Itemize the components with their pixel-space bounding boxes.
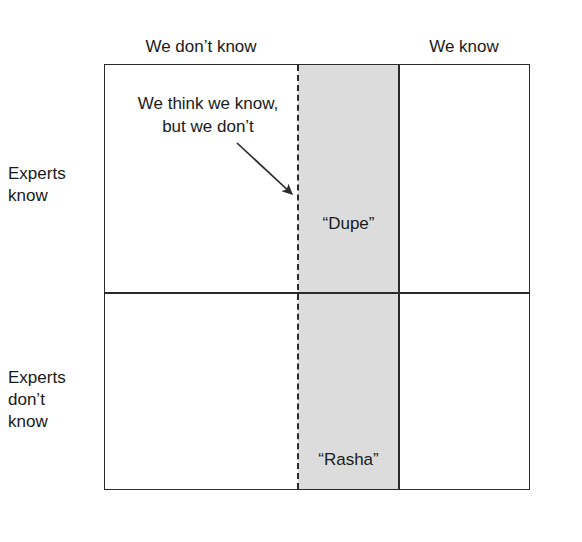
row-header-experts-know: Experts know — [8, 163, 96, 207]
annotation-label: We think we know, but we don’t — [115, 92, 301, 138]
knowledge-matrix-diagram: We don’t know We know Experts know Exper… — [0, 0, 582, 542]
row-header-experts-know-line-2: know — [8, 185, 96, 207]
vertical-divider-line — [398, 65, 400, 489]
row-header-experts-dont-know: Experts don’t know — [8, 367, 96, 433]
cell-label-dupe: “Dupe” — [298, 213, 399, 234]
column-header-we-dont-know: We don’t know — [104, 36, 298, 57]
annotation-label-line-2: but we don’t — [115, 115, 301, 138]
row-header-experts-dont-know-line-2: don’t — [8, 389, 96, 411]
horizontal-divider-line — [105, 292, 529, 294]
annotation-arrow-icon — [235, 141, 315, 203]
column-header-we-know: We know — [398, 36, 530, 57]
annotation-label-line-1: We think we know, — [115, 92, 301, 115]
row-header-experts-dont-know-line-1: Experts — [8, 367, 96, 389]
row-header-experts-know-line-1: Experts — [8, 163, 96, 185]
row-header-experts-dont-know-line-3: know — [8, 411, 96, 433]
cell-label-rasha: “Rasha” — [298, 449, 399, 470]
shaded-band — [298, 65, 399, 489]
matrix-frame: “Dupe” “Rasha” We think we know, but we … — [104, 64, 530, 490]
